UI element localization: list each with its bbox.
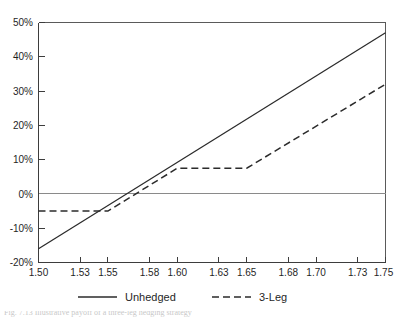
y-tick-label: 50% [13,17,33,28]
x-tick-label: 1.63 [209,267,229,278]
plot-frame [39,23,386,263]
x-tick-label: 1.68 [279,267,299,278]
y-tick-label: 0% [19,189,34,200]
x-axis-ticks: 1.50 1.53 1.55 1.58 1.60 1.63 1.65 1.68 … [29,257,394,279]
x-tick-label: 1.55 [98,267,118,278]
series-line-3-leg [39,84,386,211]
x-tick-label: 1.58 [140,267,160,278]
figure-caption: Fig. 7.13 Illustrative payoff of a three… [0,311,412,320]
x-tick-label: 1.60 [168,267,188,278]
legend-label-3-leg: 3-Leg [259,291,287,303]
y-axis-ticks: -20% -10% 0% 10% 20% 30% 40% 50% [10,17,45,268]
y-tick-label: 40% [13,51,33,62]
x-tick-label: 1.70 [306,267,326,278]
x-tick-label: 1.73 [348,267,368,278]
y-tick-label: 10% [13,154,33,165]
figure-caption-text: Fig. 7.13 Illustrative payoff of a three… [4,311,412,317]
legend-item-unhedged[interactable]: Unhedged [78,291,176,303]
plot-frame-path [39,23,386,263]
series-group [39,33,386,249]
y-tick-label: -10% [10,223,33,234]
x-tick-label: 1.53 [70,267,90,278]
y-tick-label: 30% [13,86,33,97]
y-tick-label: 20% [13,120,33,131]
chart-legend: Unhedged 3-Leg [78,291,287,303]
legend-item-3-leg[interactable]: 3-Leg [212,291,287,303]
figure-container: -20% -10% 0% 10% 20% 30% 40% 50% 1.50 1.… [0,0,412,320]
payoff-line-chart: -20% -10% 0% 10% 20% 30% 40% 50% 1.50 1.… [0,0,412,320]
x-tick-label: 1.75 [374,267,394,278]
legend-label-unhedged: Unhedged [125,291,176,303]
x-tick-label: 1.50 [29,267,49,278]
series-line-unhedged [39,33,386,249]
x-tick-label: 1.65 [237,267,257,278]
